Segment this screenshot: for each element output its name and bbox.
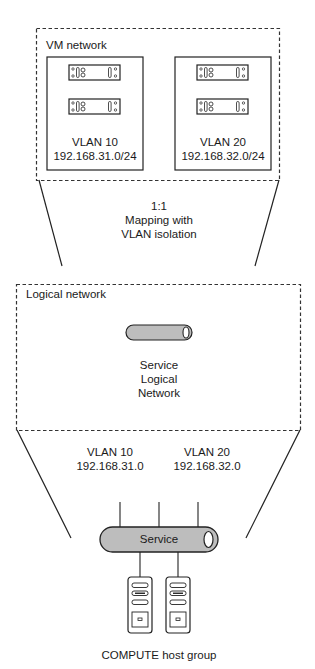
mapping-line1: Mapping with <box>100 213 218 227</box>
server-icon <box>128 577 152 633</box>
mapping-line-left <box>39 180 62 266</box>
vm-icon <box>69 65 120 80</box>
vm-icon <box>197 65 248 80</box>
host-line-right <box>246 430 300 538</box>
service-label-line3: Network <box>100 386 218 400</box>
vm-network-title: VM network <box>46 38 107 52</box>
host-vlan10-name: VLAN 10 <box>70 445 150 459</box>
service-switch-label: Service <box>100 532 218 546</box>
vm-vlan20-subnet: 192.168.32.0/24 <box>175 149 271 163</box>
service-label-line2: Logical <box>100 372 218 386</box>
vm-icon <box>197 99 248 114</box>
service-logical-network-pipe-icon <box>126 325 192 340</box>
mapping-line-right <box>255 180 279 266</box>
service-label-line1: Service <box>100 358 218 372</box>
host-line-left <box>17 430 71 538</box>
host-vlan10-subnet: 192.168.31.0 <box>70 459 150 473</box>
compute-host-group-label: COMPUTE host group <box>60 648 258 662</box>
logical-network-title: Logical network <box>26 287 106 301</box>
network-diagram <box>0 0 315 669</box>
vm-vlan10-subnet: 192.168.31.0/24 <box>47 149 143 163</box>
mapping-line2: VLAN isolation <box>100 227 218 241</box>
vm-vlan20-name: VLAN 20 <box>175 135 271 149</box>
host-vlan20-subnet: 192.168.32.0 <box>167 459 247 473</box>
host-vlan20-name: VLAN 20 <box>167 445 247 459</box>
mapping-ratio: 1:1 <box>100 199 218 213</box>
server-icon <box>166 577 190 633</box>
vm-icon <box>69 99 120 114</box>
vm-vlan10-name: VLAN 10 <box>47 135 143 149</box>
